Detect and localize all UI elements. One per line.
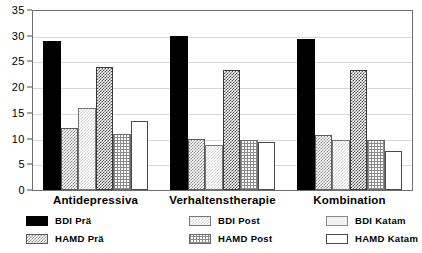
- legend-label: HAMD Post: [218, 234, 272, 244]
- legend-column: BDI PostHAMD Post: [189, 212, 272, 248]
- bar: [205, 145, 223, 190]
- y-axis-tick-label: 30: [12, 30, 25, 41]
- bar: [223, 70, 241, 190]
- chart-root: 05101520253035 AntidepressivaVerhaltenst…: [0, 0, 422, 253]
- legend-item[interactable]: HAMD Katam: [326, 230, 418, 248]
- legend-item[interactable]: HAMD Post: [189, 230, 272, 248]
- legend-swatch: [189, 234, 211, 244]
- bar: [43, 41, 61, 190]
- bar: [78, 108, 96, 190]
- legend-item[interactable]: BDI Post: [189, 212, 272, 230]
- bar: [96, 67, 114, 190]
- legend-label: HAMD Katam: [355, 234, 418, 244]
- bar: [332, 140, 350, 190]
- legend-item[interactable]: HAMD Prä: [26, 230, 104, 248]
- legend-label: BDI Katam: [355, 216, 406, 226]
- x-axis-labels: AntidepressivaVerhaltenstherapieKombinat…: [32, 193, 413, 209]
- y-axis-tick-label: 10: [12, 133, 25, 144]
- y-axis-tick-label: 35: [12, 5, 25, 16]
- bar: [61, 128, 79, 190]
- legend-label: BDI Prä: [55, 216, 91, 226]
- bar: [113, 134, 131, 190]
- legend-column: BDI PräHAMD Prä: [26, 212, 104, 248]
- bar: [240, 140, 258, 190]
- legend-swatch: [26, 234, 48, 244]
- legend-label: BDI Post: [218, 216, 260, 226]
- y-axis-tick-label: 5: [18, 159, 25, 170]
- legend-swatch: [189, 216, 211, 226]
- legend-swatch: [26, 216, 48, 226]
- y-axis-tick-label: 20: [12, 82, 25, 93]
- legend-item[interactable]: BDI Prä: [26, 212, 104, 230]
- bars-layer: [32, 10, 413, 190]
- bar: [315, 135, 333, 190]
- y-axis-tick-label: 0: [18, 185, 25, 196]
- chart-legend: BDI PräHAMD PräBDI PostHAMD PostBDI Kata…: [26, 212, 418, 252]
- bar-group: [286, 10, 413, 190]
- bar: [258, 142, 276, 190]
- x-axis-group-label: Kombination: [313, 193, 385, 207]
- bar: [297, 39, 315, 190]
- y-axis-tick-label: 15: [12, 107, 25, 118]
- bar: [131, 121, 149, 190]
- y-axis: 05101520253035: [0, 0, 32, 191]
- bar: [385, 151, 403, 190]
- legend-column: BDI KatamHAMD Katam: [326, 212, 418, 248]
- legend-item[interactable]: BDI Katam: [326, 212, 418, 230]
- x-axis-group-label: Antidepressiva: [53, 193, 138, 207]
- legend-label: HAMD Prä: [55, 234, 104, 244]
- bar: [188, 139, 206, 190]
- y-axis-tick-label: 25: [12, 56, 25, 67]
- bar-group: [159, 10, 286, 190]
- bar: [350, 70, 368, 190]
- legend-swatch: [326, 234, 348, 244]
- legend-swatch: [326, 216, 348, 226]
- x-axis-group-label: Verhaltenstherapie: [169, 193, 276, 207]
- bar: [170, 36, 188, 190]
- bar: [367, 140, 385, 190]
- bar-group: [32, 10, 159, 190]
